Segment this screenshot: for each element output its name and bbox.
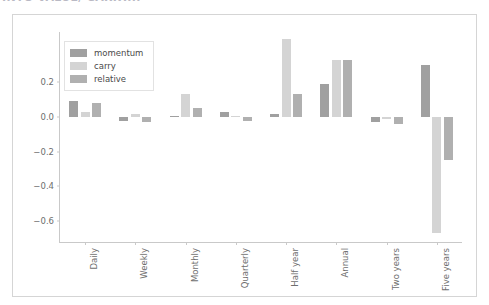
bar-relative-monthly <box>193 108 202 117</box>
y-axis-tick-label: −0.4 <box>33 181 54 191</box>
legend-swatch-icon <box>70 49 87 57</box>
x-axis-tick-label: Five years <box>441 248 451 291</box>
x-axis-tick-label: Annual <box>340 248 350 278</box>
legend-item-momentum: momentum <box>70 47 143 59</box>
bar-carry-two-years <box>382 117 391 119</box>
x-axis-tick-label: Monthly <box>190 248 200 282</box>
bar-carry-five-years <box>432 117 441 233</box>
bar-momentum-half-year <box>270 114 279 117</box>
y-axis-tick-label: −0.6 <box>33 216 54 226</box>
x-axis-tick-label: Two years <box>391 248 401 290</box>
x-axis-tick-label: Weekly <box>139 248 149 279</box>
x-axis-tick-mark <box>437 242 438 245</box>
y-axis-tick-mark <box>57 151 60 152</box>
x-axis-tick-mark <box>336 242 337 245</box>
figure-panel: 0.20.0−0.2−0.4−0.6DailyWeeklyMonthlyQuar… <box>12 14 477 297</box>
y-axis-tick-label: 0.2 <box>40 77 54 87</box>
bar-carry-annual <box>332 60 341 117</box>
legend-label: relative <box>94 75 126 84</box>
bar-momentum-weekly <box>119 117 128 120</box>
legend-item-relative: relative <box>70 73 143 85</box>
y-axis-tick-mark <box>57 82 60 83</box>
y-axis-tick-label: 0.0 <box>40 112 54 122</box>
x-axis-tick-mark <box>85 242 86 245</box>
legend-label: momentum <box>94 49 143 58</box>
legend-swatch-icon <box>70 62 87 70</box>
y-axis-tick-label: −0.2 <box>33 147 54 157</box>
y-axis-tick-mark <box>57 186 60 187</box>
bar-carry-weekly <box>131 114 140 117</box>
bar-relative-half-year <box>293 94 302 117</box>
bar-carry-quarterly <box>231 116 240 117</box>
bar-carry-daily <box>81 112 90 117</box>
bar-relative-daily <box>92 103 101 117</box>
bar-relative-quarterly <box>243 117 252 120</box>
bar-momentum-five-years <box>421 65 430 117</box>
bar-relative-annual <box>343 60 352 117</box>
bar-carry-monthly <box>181 94 190 117</box>
y-axis-tick-mark <box>57 117 60 118</box>
bar-relative-weekly <box>142 117 151 122</box>
x-axis-tick-mark <box>135 242 136 245</box>
bar-carry-half-year <box>282 39 291 117</box>
legend-swatch-icon <box>70 75 87 83</box>
legend-label: carry <box>94 62 116 71</box>
bar-relative-two-years <box>394 117 403 124</box>
x-axis-tick-mark <box>236 242 237 245</box>
bar-momentum-annual <box>320 84 329 117</box>
x-axis-tick-mark <box>387 242 388 245</box>
legend-item-carry: carry <box>70 60 143 72</box>
chart-legend: momentumcarryrelative <box>64 41 154 91</box>
x-axis-tick-label: Half year <box>290 248 300 287</box>
y-axis-tick-mark <box>57 221 60 222</box>
x-axis-tick-mark <box>186 242 187 245</box>
bar-momentum-daily <box>69 101 78 117</box>
bar-momentum-quarterly <box>220 112 229 117</box>
x-axis-tick-mark <box>286 242 287 245</box>
x-axis-tick-label: Quarterly <box>240 248 250 288</box>
page-heading: INTO VALUE/ CARRY... <box>0 0 489 5</box>
bar-momentum-monthly <box>170 116 179 117</box>
bar-momentum-two-years <box>371 117 380 122</box>
bar-relative-five-years <box>444 117 453 160</box>
x-axis-tick-label: Daily <box>89 248 99 270</box>
